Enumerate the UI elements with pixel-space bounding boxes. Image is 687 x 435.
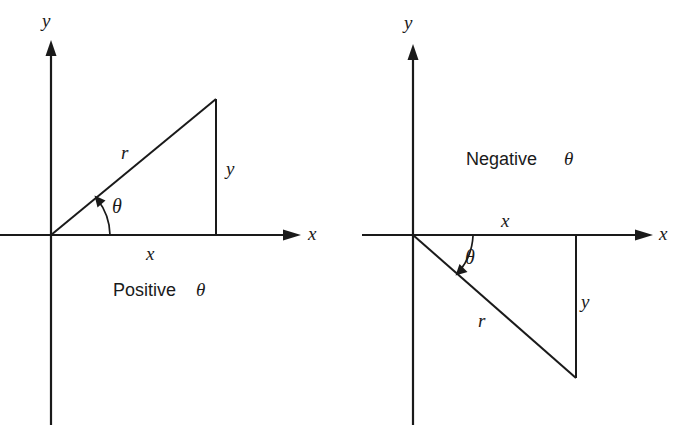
right-caption-text: Negative: [466, 149, 537, 169]
left-x-leg-label: x: [145, 243, 155, 264]
left-y-leg-label: y: [224, 158, 235, 179]
right-caption-theta: θ: [564, 148, 573, 169]
left-hypotenuse-r-line: [51, 99, 216, 235]
left-x-axis-label: x: [307, 223, 317, 244]
right-theta-label: θ: [465, 246, 475, 268]
left-panel-positive-theta: y x r y x θ Positive θ: [0, 10, 317, 425]
trigonometry-angle-sign-diagram: y x r y x θ Positive θ: [0, 0, 687, 435]
right-x-leg-label: x: [500, 210, 510, 231]
right-y-axis-label: y: [402, 12, 413, 33]
right-r-label: r: [478, 310, 486, 331]
left-y-axis-arrowhead-icon: [46, 40, 57, 56]
right-panel-negative-theta: y x r y x θ Negative θ: [362, 12, 668, 425]
right-x-axis-label: x: [658, 223, 668, 244]
figure-canvas: y x r y x θ Positive θ: [0, 0, 687, 435]
right-hypotenuse-r-line: [413, 235, 576, 378]
right-x-axis-arrowhead-icon: [635, 230, 653, 241]
right-y-axis-arrowhead-icon: [408, 44, 419, 60]
left-theta-label: θ: [112, 195, 122, 217]
left-x-axis-arrowhead-icon: [283, 230, 301, 241]
left-y-axis-label: y: [40, 10, 51, 31]
left-theta-arc-arrowhead-icon: [95, 196, 106, 208]
left-caption-theta: θ: [196, 279, 205, 300]
left-caption-text: Positive: [113, 280, 176, 300]
left-r-label: r: [121, 142, 129, 163]
right-y-leg-label: y: [579, 291, 590, 312]
